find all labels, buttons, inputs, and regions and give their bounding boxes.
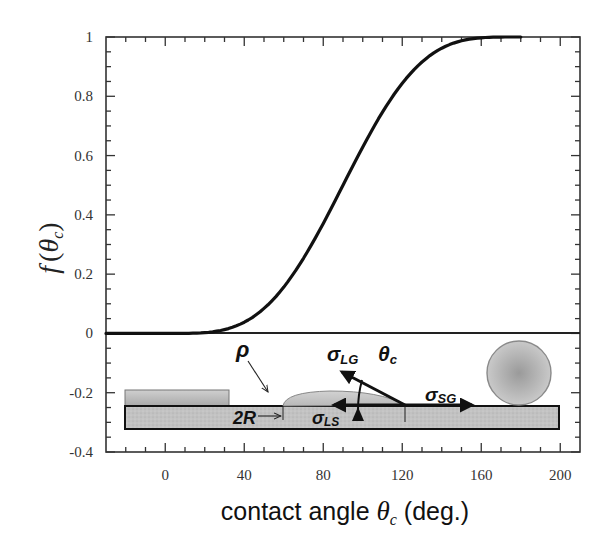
- x-tick-label: 0: [162, 467, 170, 483]
- theta-c-base: θ: [378, 342, 390, 365]
- y-tick-label: 0.8: [74, 88, 93, 104]
- rho-label: ρ: [235, 337, 249, 362]
- x-tick-label: 160: [470, 467, 493, 483]
- inset-schematic: ρ σLG θc σSG 2R σLS: [125, 337, 559, 429]
- y-axis-tick-labels: 10.80.60.40.20-0.2-0.4: [69, 29, 93, 460]
- x-tick-label: 200: [549, 467, 572, 483]
- x-axis-theta: θ: [377, 496, 390, 526]
- y-tick-label: 0.4: [74, 207, 93, 223]
- theta-c-sub: c: [390, 352, 398, 367]
- x-tick-label: 80: [316, 467, 331, 483]
- two-r-label: 2R: [232, 408, 256, 428]
- sigma-sg-sub: SG: [438, 391, 457, 406]
- y-axis-title: f(θc): [33, 222, 66, 273]
- y-tick-label: -0.4: [69, 444, 93, 460]
- y-axis-close-paren: ): [33, 222, 64, 231]
- y-tick-label: 0: [86, 325, 94, 341]
- substrate-bar: [125, 406, 559, 429]
- y-axis-func: f: [33, 263, 64, 274]
- chart: 04080120160200 10.80.60.40.20-0.2-0.4 ρ …: [0, 0, 613, 547]
- sigma-lg-label: σLG: [327, 343, 358, 367]
- y-tick-label: 0.2: [74, 266, 93, 282]
- y-axis-open-paren: (: [33, 253, 64, 262]
- x-axis-title: contact angle θc (deg.): [221, 496, 469, 528]
- x-tick-label: 120: [391, 467, 414, 483]
- y-axis-theta: θ: [33, 239, 64, 253]
- rho-pointer-arrow: [248, 361, 268, 392]
- x-axis-suffix: (deg.): [397, 497, 469, 525]
- sphere: [487, 341, 551, 405]
- y-tick-label: 0.6: [74, 148, 93, 164]
- y-tick-label: 1: [86, 29, 94, 45]
- x-axis-prefix: contact angle: [221, 497, 377, 525]
- sigma-ls-sub: LS: [324, 415, 339, 429]
- y-tick-label: -0.2: [69, 385, 93, 401]
- sigma-lg-base: σ: [327, 343, 341, 365]
- x-tick-label: 40: [237, 467, 252, 483]
- theta-c-label: θc: [378, 342, 398, 367]
- upper-substrate-block: [125, 390, 229, 406]
- x-axis-tick-labels: 04080120160200: [162, 467, 572, 483]
- sigma-lg-sub: LG: [340, 352, 358, 367]
- x-axis-sub: c: [390, 511, 397, 528]
- sigma-sg-label: σSG: [425, 384, 456, 406]
- y-axis-sub: c: [49, 232, 66, 239]
- f-theta-curve: [106, 37, 521, 333]
